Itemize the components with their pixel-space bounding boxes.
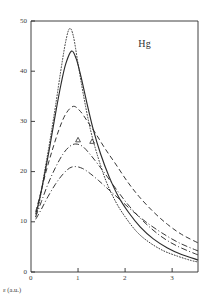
curve-group xyxy=(36,28,198,262)
y-tick-label: 0 xyxy=(8,269,27,276)
marker-group xyxy=(76,137,95,143)
y-tick-label: 50 xyxy=(8,18,27,25)
y-tick-label: 40 xyxy=(8,68,27,75)
x-axis-caption: ε (a.u.) xyxy=(3,286,21,293)
plot-frame xyxy=(31,21,198,272)
curve-dashed xyxy=(36,106,198,243)
tick-marks xyxy=(31,21,172,272)
x-tick-label: 0 xyxy=(29,275,33,282)
triangle-marker-2 xyxy=(90,139,95,143)
y-tick-label: 20 xyxy=(8,168,27,175)
x-tick-label: 3 xyxy=(170,275,174,282)
curve-dash-dot-lower xyxy=(36,167,198,251)
y-tick-label: 10 xyxy=(8,218,27,225)
triangle-marker-1 xyxy=(76,137,81,141)
curve-dash-dot-upper xyxy=(36,144,198,255)
x-tick-label: 1 xyxy=(76,275,80,282)
x-tick-label: 2 xyxy=(123,275,127,282)
species-label: Hg xyxy=(138,38,151,49)
curve-dotted xyxy=(36,28,198,262)
y-tick-label: 30 xyxy=(8,118,27,125)
figure-canvas xyxy=(0,0,211,302)
